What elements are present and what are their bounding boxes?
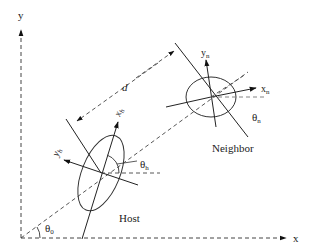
host-neighbor-diagram: y x θ0 d θh xh yh Host yn xn: [0, 0, 315, 246]
neighbor-y-axis-label: yn: [201, 47, 210, 60]
host-major-axis: [82, 122, 118, 239]
host-x-axis-label: xh: [111, 106, 126, 119]
theta-h-leader: [117, 161, 137, 164]
theta-0-arc: [37, 227, 40, 238]
neighbor-node: yn xn θn Neighbor: [166, 43, 270, 154]
neighbor-label: Neighbor: [212, 142, 254, 154]
theta-h-label: θh: [140, 158, 149, 172]
theta-0-label: θ0: [45, 222, 54, 236]
host-minor-axis: [64, 160, 138, 185]
global-axes: y x: [18, 9, 299, 244]
neighbor-x-axis-label: xn: [261, 83, 270, 96]
host-label: Host: [119, 212, 140, 224]
neighbor-perpendicular-line: [175, 43, 248, 137]
theta-n-label: θn: [252, 111, 261, 125]
x-axis-label: x: [293, 232, 299, 244]
host-y-axis-label: yh: [49, 146, 64, 159]
distance-arrow-upper: [136, 51, 174, 78]
y-axis-label: y: [18, 9, 24, 21]
host-node: θh xh yh Host: [49, 106, 160, 239]
distance-label: d: [122, 81, 128, 93]
